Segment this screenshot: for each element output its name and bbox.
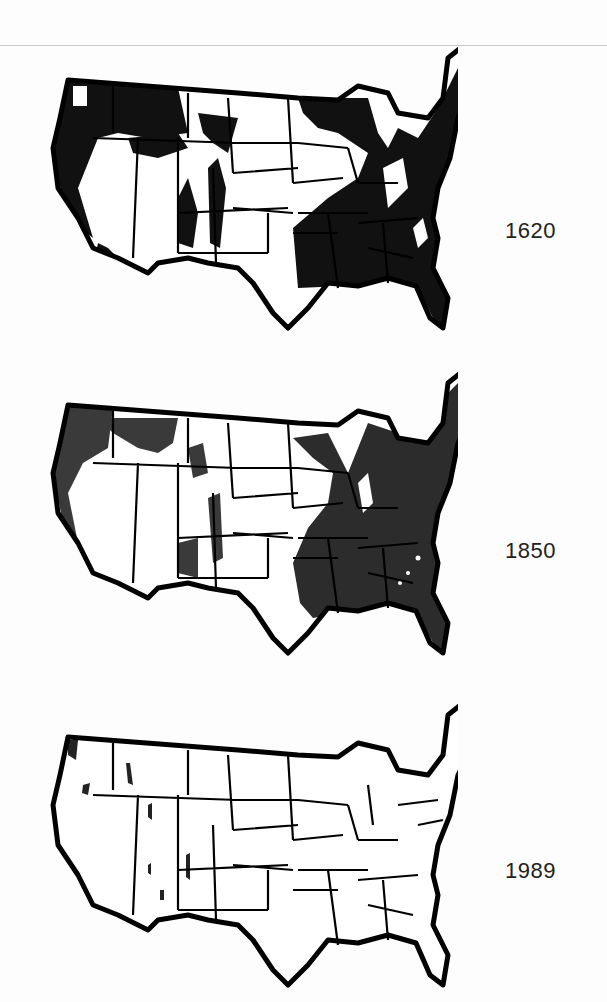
panel-1850: 1850 xyxy=(0,335,607,665)
panel-1620: 1620 xyxy=(0,0,607,335)
year-label-1850: 1850 xyxy=(505,538,556,564)
us-map-1989-svg xyxy=(38,695,458,995)
us-map-1850-svg xyxy=(38,363,458,663)
us-map-1620-svg xyxy=(38,38,458,338)
year-label-1620: 1620 xyxy=(505,218,556,244)
year-label-1989: 1989 xyxy=(505,858,556,884)
us-map-1850 xyxy=(38,363,458,663)
us-map-1620 xyxy=(38,38,458,338)
panel-1989: 1989 xyxy=(0,665,607,1002)
us-map-1989 xyxy=(38,695,458,995)
